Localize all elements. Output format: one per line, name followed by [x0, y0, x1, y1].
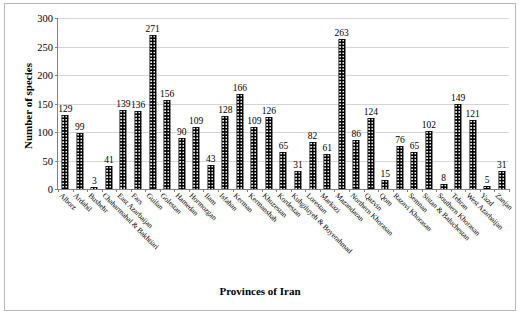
y-tick-label: 200 — [37, 70, 53, 81]
bar-slot: 86 — [349, 18, 364, 189]
bar-slot: 166 — [233, 18, 248, 189]
bar-value-label: 61 — [322, 143, 332, 153]
bar — [484, 186, 491, 189]
bar-slot: 124 — [364, 18, 379, 189]
bar-slot: 41 — [102, 18, 117, 189]
bar-slot: 102 — [422, 18, 437, 189]
bar-value-label: 65 — [410, 141, 420, 151]
bar — [338, 39, 345, 189]
bar-value-label: 126 — [262, 106, 276, 116]
bar — [120, 110, 127, 189]
x-axis-tick-labels: AlborzArdabilBushehrChaharmahal & Bakhti… — [57, 191, 509, 271]
bar-slot: 128 — [218, 18, 233, 189]
bar — [396, 146, 403, 189]
bar-value-label: 8 — [441, 173, 446, 183]
bar-value-label: 15 — [381, 169, 391, 179]
bar-slot: 65 — [407, 18, 422, 189]
bar-slot: 31 — [291, 18, 306, 189]
bar — [469, 120, 476, 189]
bar-slot: 31 — [494, 18, 509, 189]
bar — [265, 117, 272, 189]
x-tick-mark — [509, 189, 510, 192]
bar — [91, 187, 98, 189]
bar-value-label: 129 — [58, 104, 72, 114]
bar-value-label: 65 — [279, 141, 289, 151]
bar-value-label: 121 — [465, 109, 479, 119]
bar — [193, 127, 200, 189]
y-tick-label: 0 — [48, 184, 53, 195]
bar — [207, 165, 214, 190]
bar-value-label: 136 — [131, 100, 145, 110]
x-axis-title: Provinces of Iran — [0, 285, 520, 297]
bar-value-label: 3 — [92, 176, 97, 186]
y-tick-label: 250 — [37, 41, 53, 52]
bar-value-label: 263 — [335, 28, 349, 38]
bar-value-label: 43 — [206, 154, 216, 164]
bar-value-label: 31 — [293, 160, 303, 170]
bar-value-label: 5 — [485, 175, 490, 185]
bar-value-label: 31 — [497, 160, 507, 170]
bar-slot: 61 — [320, 18, 335, 189]
bar-slot: 99 — [73, 18, 88, 189]
bar-value-label: 124 — [364, 107, 378, 117]
bar-slot: 90 — [174, 18, 189, 189]
bar-value-label: 271 — [145, 24, 159, 34]
bar — [62, 115, 69, 189]
plot-area: 050100150200250300 129993411391362711569… — [57, 18, 509, 190]
bar — [455, 104, 462, 189]
bar-slot: 139 — [116, 18, 131, 189]
bar-value-label: 82 — [308, 131, 318, 141]
y-axis-title: Number of species — [22, 26, 34, 186]
bar-slot: 109 — [247, 18, 262, 189]
bar-slot: 136 — [131, 18, 146, 189]
chart-figure: Number of species 050100150200250300 129… — [0, 0, 520, 314]
bar-slot: 65 — [276, 18, 291, 189]
bar — [164, 100, 171, 189]
bar — [324, 154, 331, 189]
bar — [222, 116, 229, 189]
bar-slot: 271 — [145, 18, 160, 189]
bar-value-label: 109 — [189, 116, 203, 126]
bar-value-label: 149 — [451, 93, 465, 103]
bar-value-label: 166 — [233, 83, 247, 93]
bar — [105, 166, 112, 189]
bar-slot: 82 — [305, 18, 320, 189]
bar — [178, 138, 185, 189]
bar-value-label: 128 — [218, 105, 232, 115]
bar-slot: 76 — [393, 18, 408, 189]
bar-slot: 129 — [58, 18, 73, 189]
bar — [425, 131, 432, 189]
bar — [149, 35, 156, 189]
bar — [309, 142, 316, 189]
bar-slot: 15 — [378, 18, 393, 189]
bar — [135, 111, 142, 189]
bar-value-label: 139 — [116, 99, 130, 109]
bar-slot: 109 — [189, 18, 204, 189]
bar — [411, 152, 418, 189]
bar — [498, 171, 505, 189]
y-tick-label: 300 — [37, 13, 53, 24]
bar-slot: 263 — [334, 18, 349, 189]
bar-slot: 3 — [87, 18, 102, 189]
bar-slot: 156 — [160, 18, 175, 189]
bar — [382, 180, 389, 189]
y-tick-label: 50 — [43, 155, 54, 166]
bar — [440, 184, 447, 189]
bar-series: 1299934113913627115690109431281661091266… — [58, 18, 509, 189]
bar — [236, 94, 243, 189]
bar — [367, 118, 374, 189]
y-tick-label: 100 — [37, 127, 53, 138]
bar — [353, 140, 360, 189]
bar-value-label: 109 — [247, 116, 261, 126]
bar-slot: 43 — [203, 18, 218, 189]
y-tick-label: 150 — [37, 98, 53, 109]
bar-value-label: 86 — [351, 129, 361, 139]
bar-value-label: 99 — [75, 122, 85, 132]
bar — [76, 133, 83, 189]
bar-slot: 149 — [451, 18, 466, 189]
bar-value-label: 41 — [104, 155, 114, 165]
bar-slot: 5 — [480, 18, 495, 189]
bar-slot: 121 — [465, 18, 480, 189]
bar-slot: 126 — [262, 18, 277, 189]
bar-value-label: 90 — [177, 127, 187, 137]
